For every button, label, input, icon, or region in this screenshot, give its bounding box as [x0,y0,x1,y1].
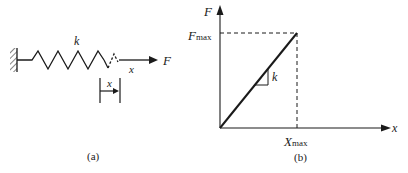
f-max-sub: max [196,32,212,42]
axes [220,12,384,128]
caption-a: (a) [87,151,99,162]
force-line [220,33,297,128]
f-max-main: F [188,28,196,43]
bracket-arrow-head [113,88,119,94]
force-arrow-head [149,56,158,64]
x-axis-label: x [392,122,397,134]
x-max-label: Xmax [284,133,307,149]
y-axis-label: F [204,5,212,18]
x-axis-arrow [381,125,391,132]
spring-constant-label: k [74,35,79,47]
f-max-label: Fmax [188,27,211,43]
y-axis-arrow [217,5,224,15]
caption-b: (b) [294,152,307,163]
force-label: F [163,54,171,67]
displacement-label: x [129,64,134,75]
diagram-graphics [0,0,408,173]
figure: k F x x (a) F x Fmax Xmax k (b) [0,0,408,173]
x-max-sub: max [292,138,308,148]
bracket-label: x [107,78,112,89]
x-max-main: X [284,134,292,149]
slope-label: k [272,71,277,83]
wall-icon [10,48,17,72]
